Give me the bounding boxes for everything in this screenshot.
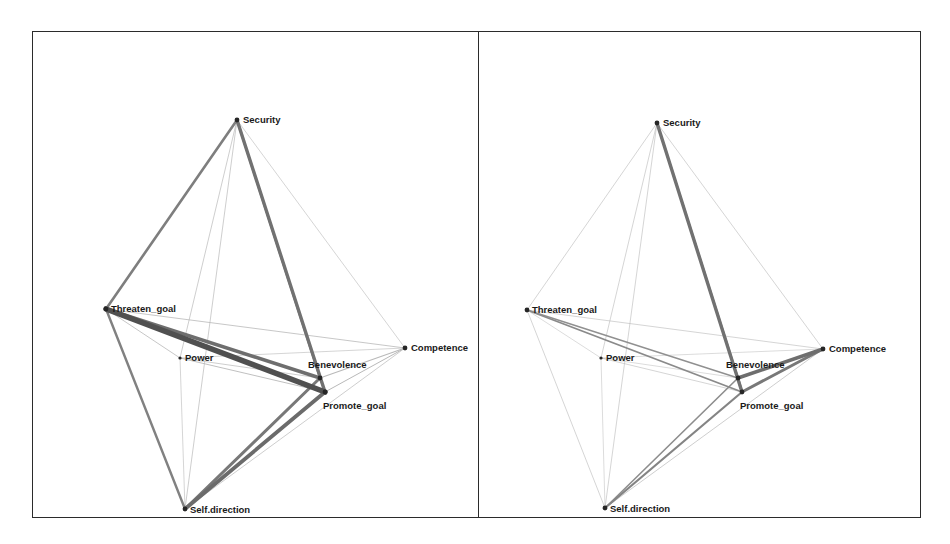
graph-edge	[601, 123, 657, 358]
node-label: Power	[606, 352, 635, 363]
graph-node-security[interactable]: Security	[235, 114, 282, 125]
network-figure: SecurityThreaten_goalPowerCompetenceBene…	[0, 0, 950, 544]
graph-edge	[527, 310, 605, 508]
graph-node-threaten-goal[interactable]: Threaten_goal	[104, 303, 176, 314]
graph-node-self-direction[interactable]: Self.direction	[603, 503, 671, 514]
node-label: Self.direction	[190, 504, 250, 515]
left-panel: SecurityThreaten_goalPowerCompetenceBene…	[32, 31, 478, 518]
graph-node-competence[interactable]: Competence	[821, 343, 886, 354]
graph-edge	[527, 310, 738, 378]
node-label: Security	[663, 117, 701, 128]
graph-edge	[185, 392, 325, 509]
left-panel-graph: SecurityThreaten_goalPowerCompetenceBene…	[32, 31, 478, 518]
graph-edge	[237, 120, 325, 392]
graph-node-power[interactable]: Power	[178, 352, 213, 363]
graph-edge	[185, 378, 320, 509]
node-dot-icon	[599, 356, 602, 359]
graph-edge	[605, 123, 657, 508]
graph-edge	[237, 120, 405, 348]
graph-edge	[527, 123, 657, 310]
node-label: Benevolence	[726, 359, 785, 370]
node-dot-icon	[178, 356, 181, 359]
graph-node-security[interactable]: Security	[655, 117, 702, 128]
graph-edge	[185, 120, 237, 509]
node-label: Competence	[829, 343, 886, 354]
right-panel: SecurityThreaten_goalPowerCompetenceBene…	[479, 31, 921, 518]
graph-edge	[601, 358, 605, 508]
graph-node-power[interactable]: Power	[599, 352, 634, 363]
node-dot-icon	[403, 346, 408, 351]
node-dot-icon	[183, 507, 188, 512]
node-dot-icon	[740, 390, 745, 395]
right-panel-graph: SecurityThreaten_goalPowerCompetenceBene…	[479, 31, 921, 518]
node-label: Competence	[411, 342, 468, 353]
node-dot-icon	[318, 376, 323, 381]
node-dot-icon	[235, 118, 240, 123]
graph-edge	[601, 358, 742, 392]
edge-layer	[527, 123, 823, 508]
node-dot-icon	[104, 307, 109, 312]
graph-edge	[605, 378, 738, 508]
graph-edge	[106, 120, 237, 309]
node-label: Threaten_goal	[111, 303, 176, 314]
edge-layer	[106, 120, 405, 509]
node-dot-icon	[323, 390, 328, 395]
graph-edge	[527, 310, 823, 349]
node-label: Security	[243, 114, 281, 125]
node-label: Power	[185, 352, 214, 363]
graph-node-self-direction[interactable]: Self.direction	[183, 504, 251, 515]
graph-edge	[657, 123, 742, 392]
node-label: Benevolence	[308, 359, 367, 370]
node-layer: SecurityThreaten_goalPowerCompetenceBene…	[104, 114, 468, 515]
graph-edge	[106, 309, 185, 509]
graph-edge	[605, 392, 742, 508]
graph-edge	[325, 348, 405, 392]
graph-node-promote-goal[interactable]: Promote_goal	[740, 390, 804, 411]
graph-edge	[657, 123, 823, 349]
node-dot-icon	[655, 121, 660, 126]
graph-edge	[180, 358, 185, 509]
node-label: Self.direction	[610, 503, 670, 514]
graph-node-threaten-goal[interactable]: Threaten_goal	[525, 304, 597, 315]
node-label: Threaten_goal	[532, 304, 597, 315]
graph-edge	[106, 309, 325, 392]
node-layer: SecurityThreaten_goalPowerCompetenceBene…	[525, 117, 886, 514]
graph-edge	[185, 348, 405, 509]
node-label: Promote_goal	[323, 400, 386, 411]
node-dot-icon	[603, 506, 608, 511]
graph-node-competence[interactable]: Competence	[403, 342, 468, 353]
graph-edge	[742, 349, 823, 392]
graph-edge	[605, 349, 823, 508]
graph-node-promote-goal[interactable]: Promote_goal	[323, 390, 387, 411]
node-dot-icon	[525, 308, 530, 313]
node-dot-icon	[821, 347, 826, 352]
node-dot-icon	[736, 376, 741, 381]
node-label: Promote_goal	[740, 400, 803, 411]
